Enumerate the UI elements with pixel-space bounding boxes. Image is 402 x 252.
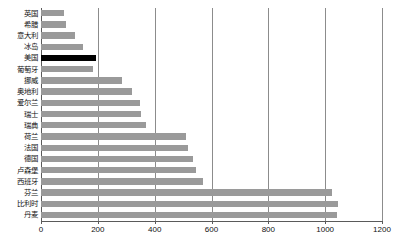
category-label: 爱尔兰 — [0, 98, 38, 107]
bar-row — [41, 53, 382, 64]
category-label: 西班牙 — [0, 177, 38, 186]
category-label: 卢森堡 — [0, 166, 38, 175]
x-axis-tick-label: 1200 — [373, 224, 391, 235]
category-label: 奥地利 — [0, 87, 38, 96]
category-label: 英国 — [0, 9, 38, 18]
bar-row — [41, 143, 382, 154]
bar — [41, 10, 64, 16]
bar — [41, 167, 196, 173]
x-axis-tick-label: 200 — [91, 224, 104, 235]
bar — [41, 100, 140, 106]
x-axis-tick — [268, 221, 269, 224]
bar-row — [41, 42, 382, 53]
bar — [41, 133, 186, 139]
bar-row — [41, 199, 382, 210]
bar — [41, 189, 332, 195]
bar — [41, 55, 96, 62]
bar-row — [41, 8, 382, 19]
category-label: 法国 — [0, 143, 38, 152]
bar-row — [41, 75, 382, 86]
category-label: 荷兰 — [0, 132, 38, 141]
bar — [41, 201, 338, 207]
bar — [41, 44, 83, 50]
x-axis-tick-label: 0 — [39, 224, 43, 235]
bar-row — [41, 109, 382, 120]
x-axis-tick-label: 800 — [262, 224, 275, 235]
bar — [41, 145, 188, 151]
x-axis-tick — [155, 221, 156, 224]
value-axis-labels: 020040060080010001200 — [0, 224, 402, 240]
bar-row — [41, 210, 382, 221]
x-axis-tick — [382, 221, 383, 224]
bar-row — [41, 86, 382, 97]
category-label: 瑞典 — [0, 121, 38, 130]
bar — [41, 66, 93, 72]
bar-row — [41, 120, 382, 131]
bar-row — [41, 98, 382, 109]
category-label: 芬兰 — [0, 188, 38, 197]
bar-row — [41, 187, 382, 198]
bar-row — [41, 131, 382, 142]
category-axis-labels: 英国希腊意大利冰岛美国葡萄牙挪威奥地利爱尔兰瑞士瑞典荷兰法国德国卢森堡西班牙芬兰… — [0, 8, 38, 221]
bar-series — [41, 8, 382, 221]
bar — [41, 21, 66, 27]
bar — [41, 156, 193, 162]
bar-chart: 英国希腊意大利冰岛美国葡萄牙挪威奥地利爱尔兰瑞士瑞典荷兰法国德国卢森堡西班牙芬兰… — [0, 0, 402, 252]
category-label: 德国 — [0, 154, 38, 163]
bar-row — [41, 30, 382, 41]
category-label: 希腊 — [0, 20, 38, 29]
bar — [41, 111, 141, 117]
x-axis-tick — [212, 221, 213, 224]
category-label: 葡萄牙 — [0, 65, 38, 74]
category-label: 冰岛 — [0, 42, 38, 51]
category-label: 挪威 — [0, 76, 38, 85]
x-axis-tick-label: 600 — [205, 224, 218, 235]
x-axis-tick-label: 1000 — [316, 224, 334, 235]
category-label: 意大利 — [0, 31, 38, 40]
bar-row — [41, 64, 382, 75]
bar — [41, 77, 122, 83]
bar — [41, 122, 146, 128]
gridline — [382, 8, 383, 221]
bar — [41, 88, 132, 94]
category-label: 比利时 — [0, 199, 38, 208]
x-axis-tick — [98, 221, 99, 224]
bar-row — [41, 154, 382, 165]
category-label: 丹麦 — [0, 210, 38, 219]
category-label: 瑞士 — [0, 110, 38, 119]
bar-row — [41, 19, 382, 30]
bar — [41, 178, 203, 184]
bar — [41, 32, 75, 38]
bar-row — [41, 176, 382, 187]
x-axis-tick — [325, 221, 326, 224]
bar-row — [41, 165, 382, 176]
category-label: 美国 — [0, 53, 38, 62]
x-axis-tick-label: 400 — [148, 224, 161, 235]
x-axis-tick — [41, 221, 42, 224]
bar — [41, 212, 337, 218]
